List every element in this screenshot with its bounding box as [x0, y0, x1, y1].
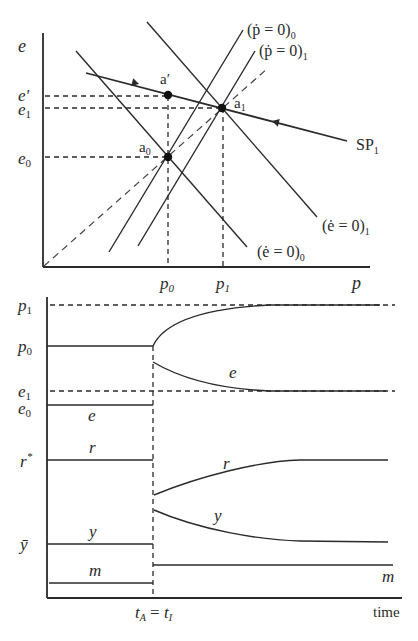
- label-r-after: r: [223, 454, 230, 473]
- pdot-zero-1-line: [138, 51, 255, 246]
- label-edot-zero-1: (ė = 0)1: [322, 217, 370, 237]
- phase-diagram: a′ a0 a1 e p e′ e1 e0 p0 p1 (ṗ = 0)0 (ṗ …: [18, 21, 379, 294]
- label-saddle-path: SP1: [356, 136, 379, 156]
- tick-r-star: r*: [20, 450, 33, 471]
- tick-y-bar: ȳ: [18, 535, 28, 554]
- y-after-curve: [154, 510, 388, 542]
- label-y-before: y: [87, 522, 97, 541]
- label-a-prime: a′: [160, 71, 170, 87]
- label-edot-zero-0: (ė = 0)0: [257, 243, 305, 263]
- r-after-curve: [154, 460, 388, 495]
- point-a-prime: [164, 91, 172, 99]
- label-m-after: m: [382, 567, 394, 586]
- label-e-after: e: [229, 363, 237, 382]
- time-paths: p1 p0 e1 e0 r* ȳ e e r r y y m m time tA…: [17, 296, 402, 623]
- label-pdot-zero-0: (ṗ = 0)0: [247, 21, 296, 41]
- label-a1: a1: [234, 95, 246, 113]
- tick-e0: e0: [18, 149, 32, 169]
- tick-e0-lower: e0: [18, 399, 32, 419]
- dornbusch-diagram: a′ a0 a1 e p e′ e1 e0 p0 p1 (ṗ = 0)0 (ṗ …: [0, 0, 418, 641]
- tick-p0: p0: [159, 274, 175, 294]
- tick-p0-lower: p0: [17, 337, 33, 357]
- time-axis-label: time: [373, 604, 400, 620]
- label-y-after: y: [212, 506, 222, 525]
- label-a0: a0: [139, 139, 151, 157]
- e-axis-label: e: [18, 36, 26, 56]
- point-a0: [164, 153, 172, 161]
- p-after-curve: [153, 305, 380, 346]
- e-after-curve: [153, 362, 386, 391]
- p-axis-label: p: [350, 273, 361, 293]
- tick-p1-lower: p1: [17, 296, 32, 316]
- label-r-before: r: [89, 438, 96, 457]
- shock-time-label: tA = tI: [135, 603, 173, 623]
- tick-p1: p1: [215, 274, 230, 294]
- label-pdot-zero-1: (ṗ = 0)1: [259, 42, 308, 62]
- label-e-before: e: [88, 406, 96, 425]
- label-m-before: m: [89, 561, 101, 580]
- point-a1: [218, 104, 226, 112]
